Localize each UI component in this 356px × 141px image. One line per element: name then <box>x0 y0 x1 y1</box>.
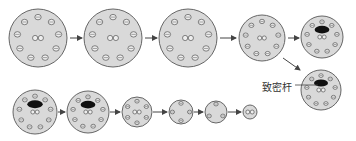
dense-rod <box>81 101 96 109</box>
cross-section-stage-1 <box>9 9 67 67</box>
central-microtubule <box>84 110 88 114</box>
central-microtubule <box>318 35 322 39</box>
central-microtubule <box>137 110 141 114</box>
central-microtubule <box>321 88 325 92</box>
cross-section-stage-8 <box>67 91 109 133</box>
central-microtubule <box>31 110 35 114</box>
central-microtubule <box>108 35 113 40</box>
central-microtubule <box>133 110 137 114</box>
cross-section-stage-12 <box>243 105 257 119</box>
central-microtubule <box>113 35 118 40</box>
cross-section-stage-10 <box>169 100 193 124</box>
central-microtubule <box>250 110 254 114</box>
central-microtubule <box>33 35 38 40</box>
central-microtubule <box>183 35 188 40</box>
dense-rod <box>27 100 42 108</box>
dense-rod-label: 致密杆 <box>262 79 292 94</box>
dense-rod <box>315 26 330 34</box>
central-microtubule <box>38 35 43 40</box>
cross-section-stage-11 <box>205 101 227 123</box>
cross-section-stage-3 <box>159 9 217 67</box>
cross-section-stage-2 <box>84 9 142 67</box>
central-microtubule <box>246 110 250 114</box>
cross-section-stage-9 <box>122 97 152 127</box>
central-microtubule <box>322 35 326 39</box>
dense-rod <box>314 79 328 86</box>
central-microtubule <box>258 36 262 40</box>
central-microtubule <box>317 88 321 92</box>
axoneme-diagram <box>0 0 356 141</box>
central-microtubule <box>35 110 39 114</box>
cross-section-stage-5 <box>301 16 343 58</box>
cross-section-stage-6 <box>301 70 341 110</box>
central-microtubule <box>88 110 92 114</box>
central-microtubule <box>188 35 193 40</box>
central-microtubule <box>262 36 266 40</box>
cross-section-stage-7 <box>13 90 57 134</box>
cross-section-stage-4 <box>239 15 285 61</box>
